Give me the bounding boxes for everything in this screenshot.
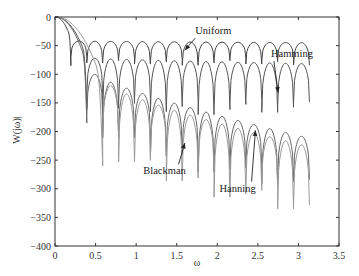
y-tick-label: −100 bbox=[30, 69, 51, 80]
y-tick-label: −350 bbox=[30, 212, 51, 223]
y-axis-label: W(jω)| bbox=[11, 116, 23, 143]
annotations: UniformHammingBlackmanHanning bbox=[143, 25, 313, 193]
curves bbox=[55, 17, 309, 209]
x-tick-label: 3 bbox=[296, 250, 301, 261]
annotation-hamming: Hamming bbox=[271, 48, 314, 59]
series-hamming bbox=[55, 17, 309, 115]
series-blackman bbox=[55, 17, 309, 209]
annotation-hanning: Hanning bbox=[219, 183, 256, 194]
x-tick-label: 2 bbox=[215, 250, 220, 261]
x-tick-label: 2.5 bbox=[252, 250, 265, 261]
x-tick-label: 0 bbox=[53, 250, 58, 261]
chart: 00.511.522.533.5 0−50−100−150−200−250−30… bbox=[0, 0, 359, 276]
y-tick-label: −150 bbox=[30, 97, 51, 108]
x-tick-label: 0.5 bbox=[89, 250, 102, 261]
x-tick-label: 3.5 bbox=[333, 250, 346, 261]
x-axis-label: ω bbox=[194, 257, 201, 268]
annotation-blackman: Blackman bbox=[143, 165, 186, 176]
x-tick-label: 1 bbox=[134, 250, 139, 261]
annotation-uniform: Uniform bbox=[195, 25, 231, 36]
y-tick-label: −200 bbox=[30, 126, 51, 137]
y-tick-label: −50 bbox=[35, 40, 51, 51]
arrow-line bbox=[252, 130, 256, 181]
x-tick-label: 1.5 bbox=[170, 250, 183, 261]
y-tick-label: −300 bbox=[30, 183, 51, 194]
y-tick-label: −250 bbox=[30, 155, 51, 166]
y-tick-label: −400 bbox=[30, 241, 51, 252]
y-tick-label: 0 bbox=[46, 12, 51, 23]
